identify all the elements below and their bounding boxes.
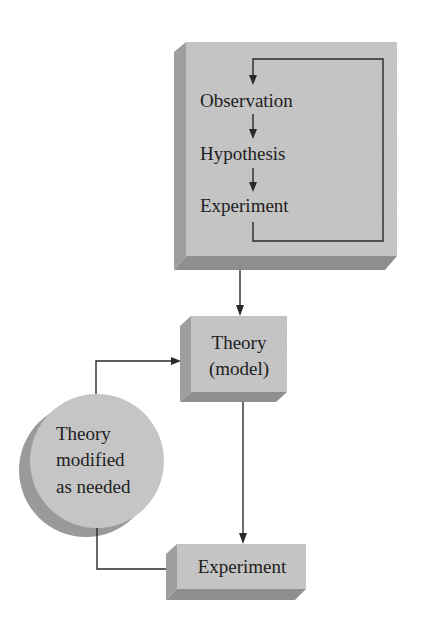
process-box-bottom [174,256,397,270]
circle-label-line1: Theory [56,423,111,444]
arrowhead-theory-experiment [239,533,247,544]
theory-label-line1: Theory [212,332,267,353]
theory-box-side [180,316,191,402]
theory-box: Theory (model) [180,316,287,402]
step-observation: Observation [200,90,293,111]
line-experiment-to-circle [97,528,170,569]
arrow-circle-to-theory [96,361,172,394]
arrowhead-circle-theory [171,357,181,365]
theory-label-line2: (model) [209,358,269,380]
step-experiment: Experiment [200,195,289,216]
process-box: Observation Hypothesis Experiment [174,42,397,270]
process-box-side [174,42,186,270]
circle-label-line3: as needed [56,476,131,497]
circle-label-line2: modified [56,449,125,470]
step-hypothesis: Hypothesis [200,143,286,164]
theory-box-bottom [180,392,287,402]
experiment-box-bottom [166,589,306,600]
arrowhead-process-theory [236,305,244,316]
theory-modified-circle: Theory modified as needed [19,394,164,537]
theory-box-face [191,316,287,392]
scientific-method-diagram: Observation Hypothesis Experiment Theory… [0,0,431,617]
experiment-box: Experiment [166,544,306,600]
experiment-label: Experiment [198,556,287,577]
